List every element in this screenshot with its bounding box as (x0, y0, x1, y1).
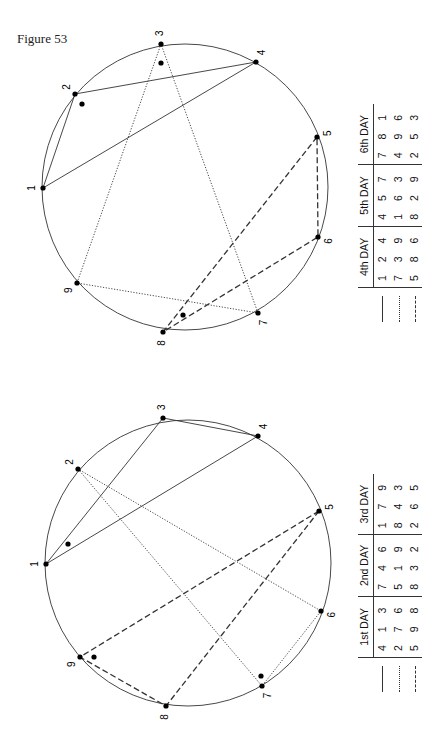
table-rotated: 4th DAY5th DAY6th DAY1 2 44 5 77 8 17 3 … (358, 104, 422, 330)
circle (45, 420, 331, 706)
diagram-top: 123456789 (27, 30, 334, 346)
point-1 (43, 561, 48, 566)
line-style-dashed-icon (415, 296, 416, 322)
line-style-dotted-icon (399, 666, 400, 692)
point-label-4: 4 (258, 423, 269, 429)
point-7 (259, 683, 264, 688)
table-row: 4 1 37 4 61 7 9 (374, 474, 391, 700)
point-label-5: 5 (324, 504, 335, 510)
point-9 (77, 654, 82, 659)
point-label-3: 3 (154, 30, 165, 36)
point-6 (315, 234, 320, 239)
table-rotated: 1st DAY2nd DAY3rd DAY4 1 37 4 61 7 92 7 … (358, 474, 422, 700)
table-row: 5 8 68 2 92 5 3 (406, 104, 422, 330)
point-label-8: 8 (159, 714, 170, 720)
point-3 (158, 41, 163, 46)
point-5 (314, 134, 319, 139)
table-cell: 1 7 9 (374, 474, 391, 535)
triangle-dotted (78, 469, 321, 686)
table-cell: 5 8 6 (406, 226, 422, 287)
point-9 (74, 280, 79, 285)
triangle-dotted (77, 44, 258, 313)
day-header: 5th DAY (358, 165, 374, 226)
day-table: 4th DAY5th DAY6th DAY1 2 44 5 77 8 17 3 … (358, 104, 422, 330)
point-label-7: 7 (258, 319, 269, 325)
triangle-solid (43, 62, 256, 188)
point-8 (163, 703, 168, 708)
point-2 (75, 466, 80, 471)
table-cell: 7 4 6 (374, 535, 391, 596)
point-label-2: 2 (64, 459, 75, 465)
table-cell: 4 5 7 (374, 165, 391, 226)
table-cell: 5 9 8 (406, 596, 422, 657)
day-header: 2nd DAY (358, 535, 374, 596)
day-header: 6th DAY (358, 104, 374, 165)
marker-dot (180, 312, 185, 317)
key-header (358, 658, 374, 701)
table-cell: 5 1 9 (390, 535, 406, 596)
table-cell: 4 9 6 (390, 104, 406, 165)
point-1 (40, 185, 45, 190)
diagram-bottom: 123456789 (30, 404, 337, 720)
point-label-6: 6 (326, 612, 337, 618)
triangle-solid (46, 418, 258, 564)
point-8 (160, 329, 165, 334)
day-header: 4th DAY (358, 226, 374, 287)
table-cell: 8 3 2 (406, 535, 422, 596)
table-cell: 1 6 3 (390, 165, 406, 226)
marker-dot (79, 101, 84, 106)
table-row: 7 3 91 6 34 9 6 (390, 104, 406, 330)
table-row: 1 2 44 5 77 8 1 (374, 104, 391, 330)
table-cell: 2 6 5 (406, 474, 422, 535)
table-cell: 4 1 3 (374, 596, 391, 657)
point-label-4: 4 (256, 49, 267, 55)
triangle-dashed (163, 137, 318, 332)
table-cell: 7 3 9 (390, 226, 406, 287)
point-2 (72, 91, 77, 96)
day-header: 3rd DAY (358, 474, 374, 535)
table-cell: 1 2 4 (374, 226, 391, 287)
point-label-5: 5 (322, 130, 333, 136)
point-label-8: 8 (156, 340, 167, 346)
table-row: 5 9 88 3 22 6 5 (406, 474, 422, 700)
point-label-7: 7 (262, 692, 273, 698)
table-row: 2 7 65 1 98 4 3 (390, 474, 406, 700)
point-4 (253, 59, 258, 64)
table-cell: 2 7 6 (390, 596, 406, 657)
marker-dot (158, 60, 163, 65)
point-5 (316, 508, 321, 513)
table-cell: 2 5 3 (406, 104, 422, 165)
marker-dot (65, 541, 70, 546)
day-header: 1st DAY (358, 596, 374, 657)
line-style-solid-icon (382, 296, 383, 322)
line-style-dotted-icon (399, 296, 400, 322)
table-cell: 8 4 3 (390, 474, 406, 535)
point-7 (255, 310, 260, 315)
point-3 (160, 415, 165, 420)
triangle-dashed (80, 511, 319, 706)
table-cell: 7 8 1 (374, 104, 391, 165)
point-label-9: 9 (63, 287, 74, 293)
point-label-3: 3 (156, 404, 167, 410)
point-6 (318, 608, 323, 613)
point-label-2: 2 (61, 84, 72, 90)
point-4 (255, 433, 260, 438)
line-style-solid-icon (382, 666, 383, 692)
point-label-6: 6 (323, 238, 334, 244)
key-header (358, 288, 374, 331)
line-style-dashed-icon (415, 666, 416, 692)
point-label-1: 1 (27, 185, 38, 191)
marker-dot (258, 673, 263, 678)
marker-dot (91, 654, 96, 659)
point-label-9: 9 (66, 661, 77, 667)
circle (42, 44, 328, 330)
table-cell: 8 2 9 (406, 165, 422, 226)
point-label-1: 1 (30, 561, 41, 567)
day-table: 1st DAY2nd DAY3rd DAY4 1 37 4 61 7 92 7 … (358, 474, 422, 700)
